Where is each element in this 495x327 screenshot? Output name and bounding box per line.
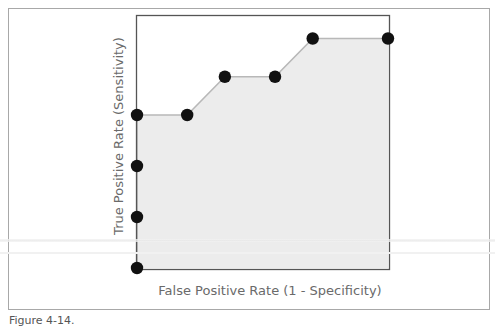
roc-point bbox=[181, 109, 193, 121]
roc-point bbox=[307, 32, 319, 44]
roc-area bbox=[137, 39, 388, 269]
y-axis-label: True Positive Rate (Sensitivity) bbox=[111, 37, 126, 235]
roc-point bbox=[382, 32, 394, 44]
roc-point bbox=[131, 109, 143, 121]
roc-point bbox=[131, 262, 143, 274]
roc-point bbox=[269, 71, 281, 83]
roc-point bbox=[219, 71, 231, 83]
scan-artifact bbox=[0, 252, 495, 254]
roc-point bbox=[131, 160, 143, 172]
roc-point bbox=[131, 211, 143, 223]
x-axis-label: False Positive Rate (1 - Specificity) bbox=[158, 283, 381, 298]
scan-artifact bbox=[0, 239, 495, 242]
figure-caption: Figure 4-14. bbox=[9, 314, 75, 327]
